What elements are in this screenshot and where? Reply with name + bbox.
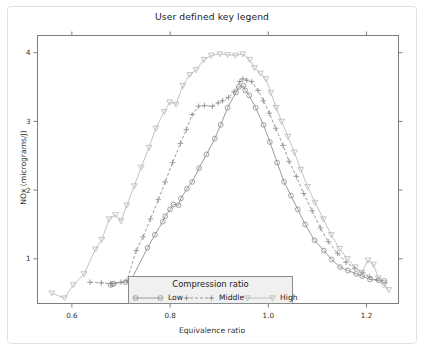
chart-figure: User defined key legend Equivalence rati… [0,0,424,351]
plot-frame [38,36,399,304]
plus-marker [249,79,255,85]
legend-entry-high[interactable]: High [244,293,297,303]
legend-swatch [132,293,164,303]
plus-marker [118,279,124,285]
plus-marker [87,279,93,285]
plus-marker [240,76,246,82]
legend-swatch [183,293,215,303]
plus-marker [184,295,190,301]
plus-marker [148,216,154,222]
plus-marker [255,88,261,94]
legend[interactable]: Compression ratio LowMiddleHigh [128,276,293,304]
plus-marker [286,158,292,164]
y-tick-label: 4 [17,48,31,57]
legend-entries: LowMiddleHigh [129,291,292,304]
plus-marker [209,295,215,301]
series-line [52,54,389,298]
y-tick-label: 3 [17,117,31,126]
y-axis-title: NOx (micrograms/J) [19,93,28,243]
legend-swatch [244,293,276,303]
legend-entry-low[interactable]: Low [132,293,183,303]
plus-marker [196,103,202,109]
plus-marker [99,280,105,286]
legend-entry-middle[interactable]: Middle [183,293,244,303]
plus-marker [244,77,250,83]
series-high [49,52,392,301]
series-line [90,79,385,284]
plus-marker [189,112,195,118]
series-line [111,86,385,285]
plus-marker [261,98,267,104]
plus-marker [140,234,146,240]
y-tick-label: 2 [17,186,31,195]
plus-marker [273,125,279,131]
plus-marker [156,197,162,203]
axis-ticks [34,32,403,308]
plus-marker [133,248,139,254]
plus-marker [267,110,273,116]
y-tick-label: 1 [17,254,31,263]
plus-marker [178,141,184,147]
x-tick-label: 0.6 [57,311,87,320]
plus-marker [280,143,286,149]
x-tick-label: 1.0 [253,311,283,320]
plus-marker [162,179,168,185]
plus-marker [184,127,190,133]
plus-marker [202,103,208,109]
legend-label: Low [168,293,183,302]
triangle-down-marker [386,288,392,293]
plus-marker [170,160,176,166]
legend-label: High [280,293,297,302]
plus-marker [210,103,216,109]
plus-marker [294,174,300,180]
plus-marker [318,225,324,231]
legend-title: Compression ratio [129,279,292,289]
series-middle [87,76,388,286]
plus-marker [309,208,315,214]
plus-marker [301,191,307,197]
x-tick-label: 1.2 [352,311,382,320]
x-tick-label: 0.8 [155,311,185,320]
x-axis-title: Equivalence ratio [0,326,424,335]
legend-label: Middle [219,293,244,302]
